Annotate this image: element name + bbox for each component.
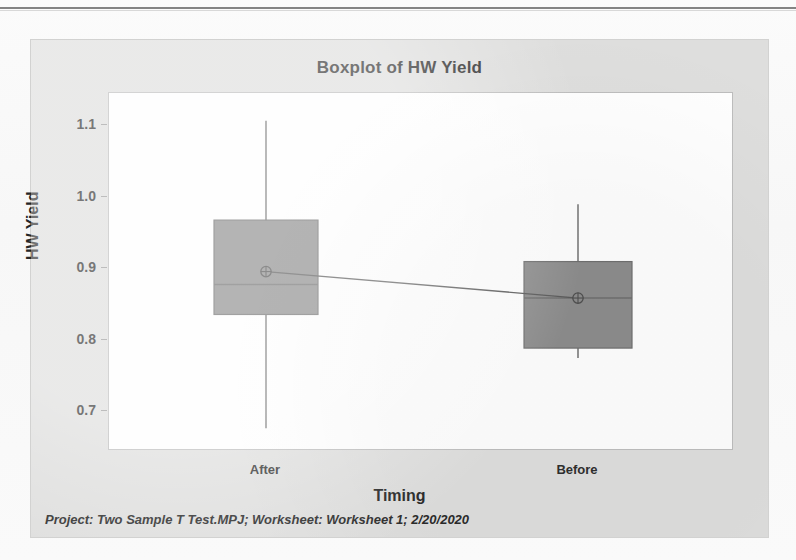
y-tick-mark [101, 124, 107, 125]
y-tick-mark [101, 410, 107, 411]
x-axis-title: Timing [31, 487, 768, 505]
y-tick-label: 0.8 [52, 331, 96, 347]
graph-footnote: Project: Two Sample T Test.MPJ; Workshee… [45, 512, 469, 527]
y-tick-label: 0.9 [52, 259, 96, 275]
x-tick-label: After [250, 462, 280, 477]
y-tick-label: 1.0 [52, 188, 96, 204]
x-tick-label: Before [556, 462, 597, 477]
y-tick-label: 1.1 [52, 116, 96, 132]
plot-area[interactable] [108, 92, 733, 450]
page-top-rule [0, 7, 796, 9]
boxplot-svg [109, 93, 732, 449]
page-top-rule-secondary [0, 10, 796, 11]
y-tick-mark [101, 267, 107, 268]
box-iqr[interactable] [524, 262, 632, 349]
y-tick-label: 0.7 [52, 402, 96, 418]
scanned-page: Boxplot of HW Yield HW Yield 1.11.00.90.… [0, 0, 796, 560]
y-tick-mark [101, 339, 107, 340]
y-tick-mark [101, 196, 107, 197]
y-axis-title: HW Yield [24, 192, 42, 260]
mean-symbol-icon [261, 266, 271, 276]
mean-symbol-icon [573, 293, 583, 303]
boxplot-group-before[interactable] [524, 204, 632, 358]
minitab-graph-window[interactable]: Boxplot of HW Yield HW Yield 1.11.00.90.… [31, 40, 768, 537]
chart-title: Boxplot of HW Yield [31, 58, 768, 78]
